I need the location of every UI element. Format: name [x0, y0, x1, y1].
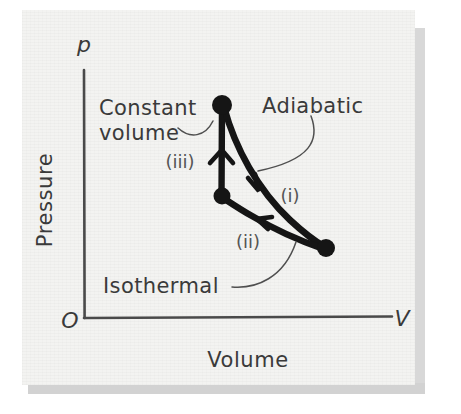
annotation-constant-volume-line2: volume [99, 121, 179, 145]
pv-diagram-plot: p V O Pressure Volume [0, 0, 461, 414]
leader-adiabatic [258, 116, 314, 171]
origin-symbol: O [61, 308, 78, 333]
stage-label-ii: (ii) [236, 231, 260, 252]
state-point-c [214, 188, 231, 205]
stage-label-i: (i) [280, 185, 299, 206]
y-axis-symbol: p [76, 32, 91, 57]
annotation-adiabatic: Adiabatic [262, 94, 363, 118]
annotation-constant-volume-line1: Constant [99, 96, 197, 120]
pv-diagram-figure: p V O Pressure Volume [0, 0, 461, 414]
y-axis-line [84, 70, 85, 318]
x-axis-symbol: V [394, 306, 411, 331]
x-axis-label: Volume [207, 348, 289, 372]
stage-label-iii: (iii) [165, 151, 194, 172]
y-axis-label: Pressure [33, 153, 57, 247]
x-axis-line [84, 317, 392, 319]
leader-constant-volume [178, 121, 213, 135]
state-point-a [212, 95, 232, 115]
state-point-b [317, 239, 335, 257]
cycle-curves-group [222, 106, 326, 249]
annotation-isothermal: Isothermal [103, 274, 219, 298]
arrowhead-adiabatic [248, 174, 259, 191]
